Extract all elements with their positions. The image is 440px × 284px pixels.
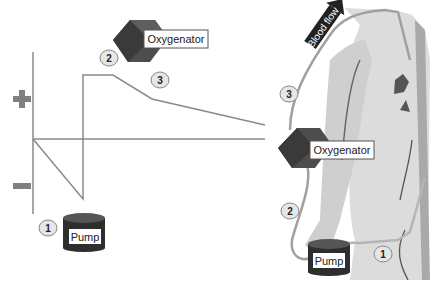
- blood-flow-arrow: Blood flow: [300, 0, 351, 52]
- chart: [13, 52, 265, 214]
- step-badge-3-body: 3: [280, 86, 298, 102]
- oxygenator-label-body: Oxygenator: [314, 144, 371, 156]
- pump-label-body: Pump: [315, 255, 344, 267]
- svg-text:3: 3: [157, 75, 163, 86]
- step-badge-1: 1: [39, 220, 57, 236]
- diagram-canvas: Oxygenator 2 3 1 Pump Blood flow: [0, 0, 440, 284]
- minus-icon: [13, 183, 31, 189]
- pressure-curve: [33, 75, 265, 199]
- step-badge-2: 2: [100, 50, 118, 66]
- svg-text:1: 1: [45, 223, 51, 234]
- svg-text:2: 2: [287, 206, 293, 217]
- oxygenator-label: Oxygenator: [148, 33, 205, 45]
- plus-icon: [13, 90, 31, 108]
- step-badge-2-body: 2: [281, 203, 299, 219]
- step-badge-3: 3: [151, 72, 169, 88]
- svg-text:3: 3: [286, 89, 292, 100]
- svg-text:1: 1: [380, 249, 386, 260]
- step-badge-1-body: 1: [374, 246, 392, 262]
- svg-text:2: 2: [106, 53, 112, 64]
- pump-label: Pump: [71, 231, 100, 243]
